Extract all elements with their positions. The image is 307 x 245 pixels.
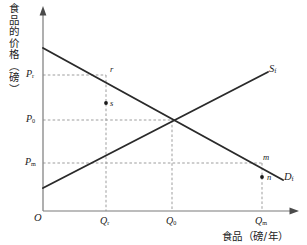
curve-label-sf: Sf (269, 64, 276, 75)
y-axis-arrow (40, 6, 47, 16)
point-label-r: r (110, 65, 113, 74)
curve-label-sf-sub: f (274, 67, 276, 74)
x-tick-sub-qm: m (262, 219, 267, 226)
y-tick-sub-pr: r (32, 72, 34, 79)
supply-curve-sf (43, 72, 268, 188)
point-label-n: n (267, 173, 271, 182)
curves-group (43, 48, 283, 188)
point-dot-s (104, 101, 108, 105)
y-tick-sub-p0: 0 (32, 117, 35, 124)
x-tick-label-qr: Qr (100, 216, 109, 227)
y-tick-sub-pm: m (31, 160, 36, 167)
point-label-m: m (263, 153, 269, 162)
curve-label-df-sub: f (292, 175, 294, 182)
supply-demand-figure: 食品的价格（磅） 食品（磅/年） O Pr P0 Pm Qr Q0 Qm Sf … (0, 0, 307, 245)
x-tick-label-qm: Qm (255, 216, 267, 227)
chart-canvas (0, 0, 307, 245)
y-tick-label-p0: P0 (26, 114, 35, 125)
y-tick-label-pm: Pm (25, 157, 36, 168)
point-markers-group (104, 101, 264, 179)
point-label-s: s (110, 99, 113, 108)
demand-curve-df (43, 48, 283, 180)
curve-label-df-base: D (284, 171, 292, 182)
curve-label-df: Df (284, 172, 294, 183)
x-tick-sub-qr: r (107, 219, 109, 226)
guide-lines-group (43, 75, 262, 211)
origin-label: O (34, 213, 42, 224)
x-tick-label-q0: Q0 (166, 216, 176, 227)
point-dot-n (260, 175, 264, 179)
x-axis-title: 食品（磅/年） (222, 228, 288, 243)
axes-group (40, 6, 299, 214)
y-axis-title: 食品的价格（磅） (2, 3, 18, 95)
x-axis-arrow (290, 208, 300, 215)
x-tick-sub-q0: 0 (173, 219, 176, 226)
y-tick-label-pr: Pr (26, 69, 34, 80)
